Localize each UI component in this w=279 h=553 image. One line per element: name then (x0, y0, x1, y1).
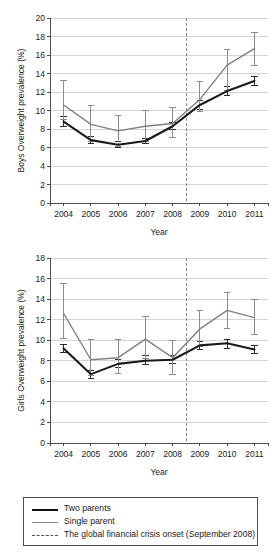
series-line-single-parent (64, 310, 255, 359)
y-tick-label: 10 (36, 106, 46, 116)
legend-label-two-parents: Two parents (64, 503, 111, 514)
x-tick-label: 2007 (136, 209, 155, 219)
y-tick-label: 2 (40, 417, 45, 427)
x-tick-label: 2010 (218, 449, 237, 459)
errorbar-single-parent (60, 81, 66, 120)
y-axis-title: Boys Overweight prevalence (%) (16, 48, 26, 172)
x-tick-label: 2007 (136, 449, 155, 459)
x-tick-label: 2006 (109, 449, 128, 459)
x-tick-label: 2008 (163, 209, 182, 219)
legend-line-solid-grey-icon (30, 517, 60, 527)
chart-legend: Two parents Single parent The global fin… (23, 497, 258, 546)
y-tick-label: 14 (36, 69, 46, 79)
x-tick-label: 2009 (190, 449, 209, 459)
x-tick-label: 2011 (245, 209, 264, 219)
x-axis-title: Year (150, 467, 167, 477)
x-tick-label: 2005 (81, 449, 100, 459)
y-tick-label: 20 (36, 13, 46, 23)
y-tick-label: 6 (40, 376, 45, 386)
y-tick-label: 14 (36, 294, 46, 304)
legend-item-single-parent: Single parent (30, 515, 253, 528)
x-tick-label: 2009 (190, 209, 209, 219)
y-tick-label: 16 (36, 50, 46, 60)
x-tick-label: 2004 (54, 209, 73, 219)
x-tick-label: 2011 (245, 449, 264, 459)
y-tick-label: 2 (40, 180, 45, 190)
errorbar-single-parent (224, 49, 230, 90)
boys-chart-canvas: 0246810121416182020042005200620072008200… (0, 0, 279, 250)
legend-line-solid-dark-icon (30, 504, 60, 514)
y-tick-label: 0 (40, 198, 45, 208)
figure-root: 0246810121416182020042005200620072008200… (0, 0, 279, 553)
legend-label-single-parent: Single parent (64, 516, 115, 527)
y-tick-label: 8 (40, 124, 45, 134)
y-tick-label: 10 (36, 335, 46, 345)
y-tick-label: 4 (40, 397, 45, 407)
boys-chart: 0246810121416182020042005200620072008200… (0, 0, 279, 250)
y-tick-label: 0 (40, 438, 45, 448)
girls-chart: 0246810121416182004200520062007200820092… (0, 250, 279, 490)
y-tick-label: 18 (36, 32, 46, 42)
x-tick-label: 2010 (218, 209, 237, 219)
y-tick-label: 6 (40, 143, 45, 153)
y-tick-label: 12 (36, 315, 46, 325)
x-tick-label: 2008 (163, 449, 182, 459)
errorbar-single-parent (142, 317, 148, 359)
y-tick-label: 8 (40, 356, 45, 366)
x-tick-label: 2005 (81, 209, 100, 219)
legend-item-two-parents: Two parents (30, 502, 253, 515)
y-axis-title: Girls Overweight prevalence (%) (16, 289, 26, 412)
y-tick-label: 12 (36, 87, 46, 97)
legend-label-crisis-onset: The global financial crisis onset (Septe… (64, 529, 255, 540)
legend-item-crisis-onset: The global financial crisis onset (Septe… (30, 528, 253, 541)
y-tick-label: 4 (40, 161, 45, 171)
y-tick-label: 16 (36, 274, 46, 284)
errorbar-single-parent (60, 284, 66, 338)
x-axis-title: Year (150, 227, 167, 237)
girls-chart-canvas: 0246810121416182004200520062007200820092… (0, 250, 279, 490)
y-tick-label: 18 (36, 253, 46, 263)
legend-line-dashed-icon (30, 530, 60, 540)
x-tick-label: 2004 (54, 449, 73, 459)
x-tick-label: 2006 (109, 209, 128, 219)
